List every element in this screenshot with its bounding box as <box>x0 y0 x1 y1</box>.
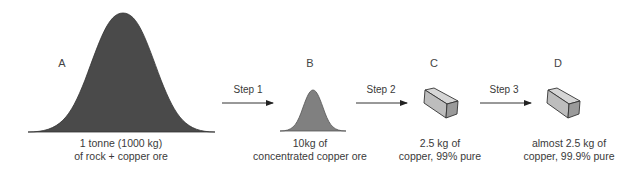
stage-b-caption-line2: concentrated copper ore <box>253 150 367 163</box>
stage-a-caption: 1 tonne (1000 kg) of rock + copper ore <box>74 137 168 163</box>
stage-a-label: A <box>58 57 65 69</box>
refined-copper-block-icon <box>547 88 580 118</box>
concentrated-ore-mound-icon <box>280 90 346 131</box>
stage-a-caption-line1: 1 tonne (1000 kg) <box>74 137 168 150</box>
stage-c-caption-line1: 2.5 kg of <box>399 137 481 150</box>
rock-ore-mound-icon <box>28 13 215 132</box>
stage-d-caption-line2: copper, 99.9% pure <box>523 150 614 163</box>
stage-b-caption-line1: 10kg of <box>253 137 367 150</box>
stage-a-caption-line2: of rock + copper ore <box>74 150 168 163</box>
stage-d-label: D <box>554 57 562 69</box>
step-2-label: Step 2 <box>367 84 396 95</box>
step-3-label: Step 3 <box>490 84 519 95</box>
stage-c-caption: 2.5 kg of copper, 99% pure <box>399 137 481 163</box>
stage-d-caption-line1: almost 2.5 kg of <box>523 137 614 150</box>
copper-block-icon <box>424 88 458 118</box>
stage-d-caption: almost 2.5 kg of copper, 99.9% pure <box>523 137 614 163</box>
stage-c-label: C <box>430 57 438 69</box>
stage-b-caption: 10kg of concentrated copper ore <box>253 137 367 163</box>
step-1-label: Step 1 <box>234 84 263 95</box>
stage-c-caption-line2: copper, 99% pure <box>399 150 481 163</box>
stage-b-label: B <box>306 57 313 69</box>
